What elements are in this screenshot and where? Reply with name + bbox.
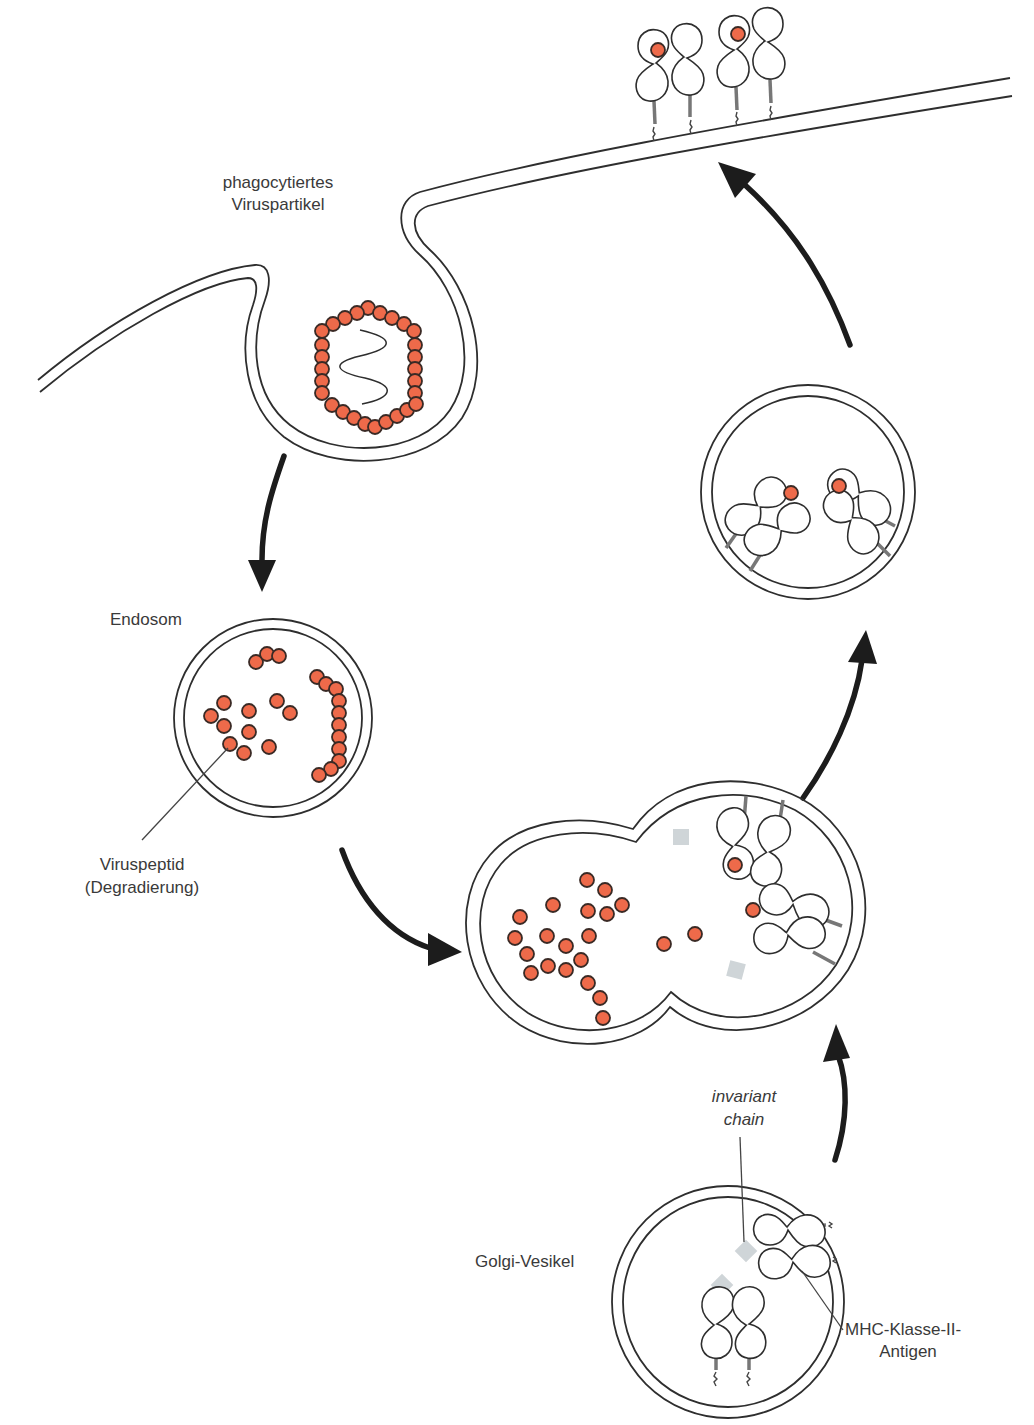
label-virus-particle: Viruspartikel (231, 195, 324, 214)
surface-mhc-complexes (636, 8, 785, 124)
label-antigen: Antigen (879, 1342, 937, 1361)
bound-peptide (731, 27, 745, 41)
leader-mhc (802, 1271, 843, 1330)
label-invariant: invariant (712, 1087, 778, 1106)
label-viruspeptide: Viruspeptid (100, 855, 185, 874)
bound-peptide (746, 903, 760, 917)
invariant-chain-fragment (735, 1240, 758, 1263)
virus-particle (315, 301, 423, 434)
label-chain: chain (724, 1110, 765, 1129)
diagram-canvas: phagocytiertes Viruspartikel (0, 0, 1034, 1425)
label-phagocytosed: phagocytiertes (223, 173, 334, 192)
invariant-chain-fragment (726, 960, 746, 980)
leader-invariant-chain (740, 1137, 744, 1242)
golgi-vesicle (612, 1186, 844, 1418)
transport-vesicle (701, 385, 915, 599)
invariant-chain-fragment (673, 829, 689, 845)
bound-peptide (651, 43, 665, 57)
bound-peptide (784, 486, 798, 500)
label-endosome: Endosom (110, 610, 182, 629)
plasma-membrane (38, 78, 1012, 461)
endosome (174, 619, 372, 817)
fusion-compartment (466, 781, 865, 1044)
bound-peptide (728, 858, 742, 872)
label-mhc-class-ii: MHC-Klasse-II- (845, 1320, 961, 1339)
label-golgi-vesicle: Golgi-Vesikel (475, 1252, 574, 1271)
bound-peptide (832, 479, 846, 493)
label-degradation: (Degradierung) (85, 878, 199, 897)
